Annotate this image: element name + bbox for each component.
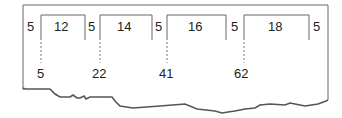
position-label: 5 — [37, 67, 44, 80]
gap-label: 5 — [313, 20, 320, 33]
position-label: 62 — [234, 67, 248, 80]
torn-edge — [23, 88, 328, 113]
diagram-canvas — [0, 0, 342, 118]
gap-label: 5 — [88, 20, 95, 33]
box-label: 14 — [117, 20, 131, 33]
gap-label: 5 — [27, 20, 34, 33]
gap-label: 5 — [231, 20, 238, 33]
box-label: 12 — [54, 20, 68, 33]
box-label: 16 — [188, 20, 202, 33]
position-label: 22 — [92, 67, 106, 80]
position-label: 41 — [159, 67, 173, 80]
box-label: 18 — [268, 20, 282, 33]
gap-label: 5 — [155, 20, 162, 33]
